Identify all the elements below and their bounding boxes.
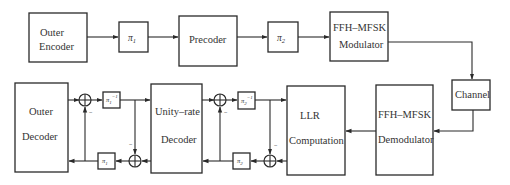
arrow-modulator-to-channel [388, 42, 472, 79]
outer-encoder-block: Outer Encoder [29, 13, 87, 62]
unity-rate-decoder-block: Unity–rate Decoder [151, 84, 202, 173]
interleaver-pi1-block: π1 [119, 22, 148, 52]
modulator-label-2: Modulator [339, 39, 384, 50]
minus-sign-sum4: − [274, 142, 278, 148]
ffh-mfsk-modulator-block: FFH–MFSK Modulator [330, 12, 388, 61]
outer-encoder-label-2: Encoder [39, 41, 74, 52]
ffh-mfsk-demodulator-block: FFH–MFSK Demodulator [376, 85, 434, 175]
pi1-subscript: 1 [133, 37, 136, 44]
minus-sign-sum3: − [224, 109, 228, 115]
outer-decoder-label-1: Outer [29, 106, 53, 117]
minus-sign-sum1: − [89, 109, 93, 115]
summing-junction-1 [79, 94, 91, 106]
minus-sign-sum2: − [129, 141, 133, 147]
outer-decoder-label-2: Decoder [22, 131, 58, 142]
summing-junction-3 [214, 94, 226, 106]
arrow-channel-to-demodulator [434, 110, 473, 131]
summing-junction-2 [129, 155, 141, 167]
precoder-block: Precoder [179, 16, 237, 66]
outer-encoder-label-1: Outer [40, 27, 64, 38]
demodulator-label-2: Demodulator [378, 134, 434, 145]
llr-label-2: Computation [289, 135, 345, 146]
turbo-receiver-block-diagram: Outer Encoder π1 Precoder π2 FFH–MFSK Mo… [0, 0, 510, 185]
pi1fb-subscript: 1 [105, 161, 108, 166]
precoder-label: Precoder [189, 34, 227, 45]
interleaver-pi1-feedback-block: π1 [98, 153, 115, 169]
modulator-label-1: FFH–MFSK [333, 22, 387, 33]
interleaver-pi2-block: π2 [268, 22, 298, 52]
deinterleaver-pi2-inverse-block: π2−1 [238, 92, 255, 109]
unity-rate-label-2: Decoder [161, 134, 197, 145]
channel-block: Channel [452, 80, 490, 110]
demodulator-label-1: FFH–MFSK [378, 109, 432, 120]
summing-junction-4 [264, 155, 276, 167]
pi1inv-superscript: −1 [112, 94, 118, 99]
interleaver-pi2-feedback-block: π2 [233, 153, 250, 169]
outer-decoder-block: Outer Decoder [15, 83, 68, 172]
llr-computation-block: LLR Computation [287, 86, 345, 175]
deinterleaver-pi1-inverse-block: π1−1 [103, 92, 120, 108]
channel-label: Channel [455, 89, 490, 100]
pi1inv-subscript: 1 [109, 100, 112, 105]
unity-rate-label-1: Unity–rate [155, 106, 200, 117]
pi2inv-superscript: −1 [247, 95, 253, 100]
llr-label-1: LLR [300, 110, 320, 121]
